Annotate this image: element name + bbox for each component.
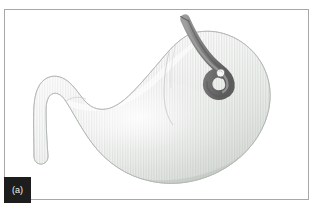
stomach-endoscope-illustration (0, 0, 315, 207)
stomach-organ (30, 25, 278, 190)
panel-label-badge: (a) (4, 177, 31, 203)
panel-label-text: (a) (12, 186, 23, 195)
stomach-rugae-texture (30, 25, 278, 190)
figure-panel: (a) (0, 0, 315, 207)
endoscope-tip-cap (217, 69, 225, 77)
